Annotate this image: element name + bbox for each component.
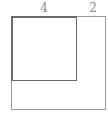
- inner-side-length-label: 4: [34, 2, 54, 14]
- remaining-side-length-label: 2: [83, 2, 103, 14]
- inner-square: [11, 16, 77, 81]
- diagram-canvas: 4 2: [0, 0, 108, 118]
